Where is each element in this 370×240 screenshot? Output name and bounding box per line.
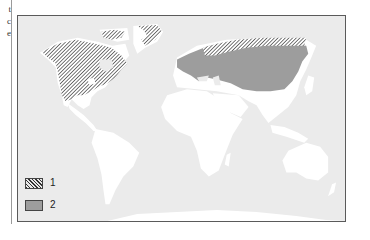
land-madagascar bbox=[225, 153, 231, 167]
column-rule bbox=[11, 0, 12, 224]
margin-text-fragment: t c e bbox=[2, 3, 11, 39]
land-japan bbox=[304, 75, 314, 95]
legend-label: 2 bbox=[50, 199, 56, 210]
land-antarctica bbox=[107, 210, 345, 221]
margin-letter: e bbox=[2, 27, 11, 39]
map-svg bbox=[18, 16, 345, 221]
margin-letter: t bbox=[2, 3, 11, 15]
legend-swatch-hatched bbox=[25, 178, 43, 189]
legend-swatch-gray bbox=[25, 200, 43, 211]
land-southeast-asia-islands bbox=[270, 125, 308, 143]
land-south-america bbox=[92, 129, 140, 204]
legend-label: 1 bbox=[50, 177, 56, 188]
land-australia bbox=[282, 143, 328, 181]
margin-letter: c bbox=[2, 15, 11, 27]
land-new-zealand bbox=[328, 182, 336, 196]
world-map bbox=[17, 15, 346, 222]
